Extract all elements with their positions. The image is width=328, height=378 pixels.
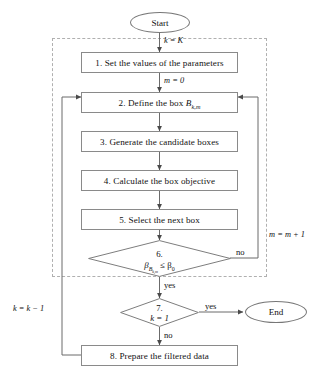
process-step-4-label: 4. Calculate the box objective bbox=[104, 176, 215, 186]
decision-step-6-shape bbox=[88, 240, 231, 277]
label-init-m-text: m = 0 bbox=[164, 76, 184, 85]
process-step-3: 3. Generate the candidate boxes bbox=[81, 131, 238, 152]
label-decrement-k-text: k = k − 1 bbox=[13, 304, 44, 313]
process-step-5: 5. Select the next box bbox=[81, 209, 238, 230]
process-step-8: 8. Prepare the filtered data bbox=[81, 345, 238, 366]
label-decision-6-yes: yes bbox=[164, 281, 175, 290]
label-decision-7-no: no bbox=[164, 331, 173, 340]
process-step-4: 4. Calculate the box objective bbox=[81, 170, 238, 191]
process-step-1: 1. Set the values of the parameters bbox=[81, 52, 238, 73]
label-init-k-text: k = K bbox=[164, 36, 183, 45]
process-step-8-label: 8. Prepare the filtered data bbox=[110, 351, 209, 361]
process-step-3-label: 3. Generate the candidate boxes bbox=[100, 137, 219, 147]
process-step-2-label: 2. Define the box Bk,m bbox=[119, 98, 201, 108]
process-step-1-label: 1. Set the values of the parameters bbox=[95, 58, 224, 68]
end-label: End bbox=[269, 307, 284, 317]
label-init-m: m = 0 bbox=[164, 77, 184, 85]
process-step-2-subscript: k,m bbox=[191, 102, 200, 109]
decision-step-6: 6. βBk,m ≤ β0 bbox=[88, 240, 231, 277]
label-decision-6-no: no bbox=[236, 248, 245, 257]
flowchart-canvas: Start k = K 1. Set the values of the par… bbox=[0, 0, 328, 378]
label-increment-m: m = m + 1 bbox=[269, 231, 305, 239]
end-terminator: End bbox=[245, 301, 307, 323]
process-step-2: 2. Define the box Bk,m bbox=[81, 92, 238, 113]
start-label: Start bbox=[151, 18, 168, 28]
label-init-k: k = K bbox=[164, 37, 183, 45]
process-step-5-label: 5. Select the next box bbox=[119, 215, 200, 225]
process-step-2-prefix: 2. Define the box bbox=[119, 98, 186, 108]
start-terminator: Start bbox=[130, 12, 190, 33]
decision-step-7-shape bbox=[120, 298, 199, 327]
label-increment-m-text: m = m + 1 bbox=[269, 230, 305, 239]
decision-step-7: 7. k = 1 bbox=[120, 298, 199, 327]
label-decision-7-yes: yes bbox=[205, 302, 216, 311]
label-decrement-k: k = k − 1 bbox=[13, 305, 44, 313]
